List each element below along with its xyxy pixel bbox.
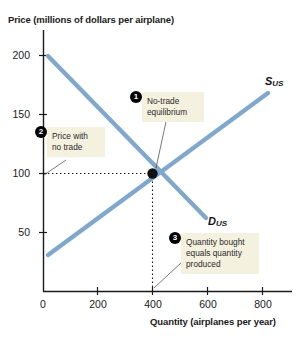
demand-label-main: D bbox=[208, 215, 216, 227]
y-tick-label-100: 100 bbox=[4, 167, 30, 179]
annotation-callout-2: Price with no trade bbox=[47, 127, 105, 157]
annotation-callout-1: No-trade equilibrium bbox=[142, 92, 204, 122]
x-tick-label-0: 0 bbox=[28, 298, 58, 310]
y-axis-title: Price (millions of dollars per airplane) bbox=[8, 14, 174, 25]
x-tick-label-400: 400 bbox=[138, 298, 168, 310]
supply-label-sub: US bbox=[272, 79, 283, 88]
annotation-badge-1: 1 bbox=[130, 91, 142, 103]
leader-line-2 bbox=[44, 160, 66, 175]
leader-line-1 bbox=[156, 117, 167, 168]
x-tick-label-600: 600 bbox=[193, 298, 223, 310]
demand-curve-label: DUS bbox=[208, 215, 227, 228]
x-tick-label-200: 200 bbox=[83, 298, 113, 310]
y-tick-label-50: 50 bbox=[4, 226, 30, 238]
annotation-badge-2: 2 bbox=[35, 126, 47, 138]
chart-canvas bbox=[0, 0, 298, 337]
annotation-badge-3: 3 bbox=[169, 232, 181, 244]
y-tick-label-150: 150 bbox=[4, 108, 30, 120]
supply-curve-label: SUS bbox=[265, 75, 283, 88]
x-tick-label-800: 800 bbox=[248, 298, 278, 310]
x-axis-title: Quantity (airplanes per year) bbox=[150, 316, 276, 327]
annotation-callout-3: Quantity bought equals quantity produced bbox=[181, 233, 259, 274]
y-tick-label-200: 200 bbox=[4, 49, 30, 61]
leader-line-3 bbox=[154, 262, 182, 288]
chart-figure: Price (millions of dollars per airplane)… bbox=[0, 0, 298, 337]
equilibrium-point bbox=[147, 168, 157, 178]
demand-label-sub: US bbox=[216, 219, 227, 228]
